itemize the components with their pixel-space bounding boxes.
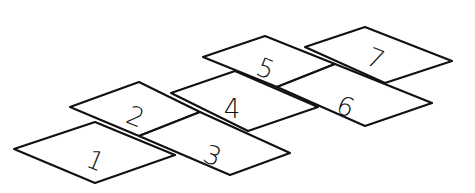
hopscotch-illustration: 1234567 xyxy=(0,0,475,193)
hopscotch-court: 1234567 xyxy=(0,0,475,193)
square-number: 4 xyxy=(224,94,241,124)
